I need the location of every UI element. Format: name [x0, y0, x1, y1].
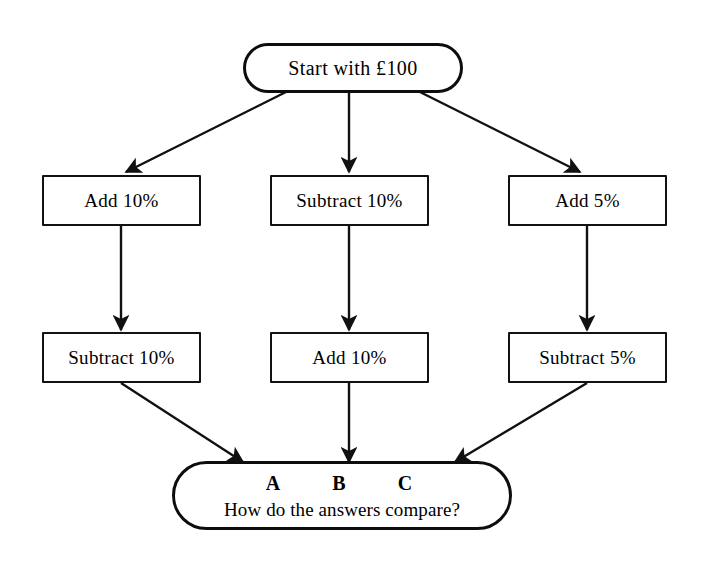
end-node-question: How do the answers compare?	[224, 500, 460, 519]
flowchart: Start with £100 Add 10% Subtract 10% Add…	[0, 0, 701, 569]
branch-b-step2-node: Add 10%	[270, 332, 429, 383]
branch-b-step2-label: Add 10%	[312, 348, 386, 367]
branch-a-step2-node: Subtract 10%	[42, 332, 201, 383]
edge-start-to-add5	[420, 92, 580, 172]
answer-letter-c: C	[372, 473, 438, 493]
answer-letter-a: A	[240, 473, 306, 493]
branch-a-step2-label: Subtract 10%	[68, 348, 175, 367]
edge-start-to-add10	[126, 92, 286, 172]
branch-a-step1-label: Add 10%	[84, 191, 158, 210]
edge-subtract5-to-end	[455, 383, 587, 462]
branch-b-step1-label: Subtract 10%	[296, 191, 403, 210]
branch-c-step2-label: Subtract 5%	[539, 348, 636, 367]
end-node: A B C How do the answers compare?	[172, 461, 512, 530]
answer-letter-b: B	[306, 473, 372, 493]
branch-c-step1-label: Add 5%	[555, 191, 620, 210]
start-node-label: Start with £100	[288, 58, 417, 78]
branch-c-step1-node: Add 5%	[508, 175, 667, 226]
edge-subtract10-to-end	[121, 383, 243, 462]
answer-letters-row: A B C	[240, 473, 438, 493]
start-node: Start with £100	[243, 43, 463, 93]
branch-a-step1-node: Add 10%	[42, 175, 201, 226]
branch-c-step2-node: Subtract 5%	[508, 332, 667, 383]
branch-b-step1-node: Subtract 10%	[270, 175, 429, 226]
